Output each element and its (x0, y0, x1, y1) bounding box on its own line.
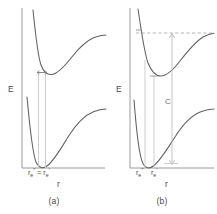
panel-a-plot (0, 0, 108, 186)
potential-energy-figure: E re″ = re′ r (a) (0, 0, 217, 214)
panel-a-x-axis-label: r (57, 179, 60, 189)
re-prime-double: ″ (33, 167, 35, 173)
re-sub-1: e (30, 172, 33, 178)
panel-a: E re″ = re′ r (a) (0, 0, 108, 214)
re-equals: = (37, 169, 41, 176)
panel-b-x-axis-label: r (165, 179, 168, 189)
upper-state-curve (138, 9, 214, 76)
panel-b-y-axis-label: E (116, 84, 122, 94)
upper-state-curve (33, 10, 106, 75)
re-b-prime-double: ″ (141, 167, 143, 173)
panel-a-caption: (a) (0, 196, 108, 206)
panel-b-re-double-prime-label: re″ (136, 169, 143, 176)
panel-b-plot (108, 0, 217, 186)
re-sub-2: e (46, 172, 49, 178)
re-b-sub-2: e (153, 172, 156, 178)
panel-a-y-axis-label: E (8, 84, 14, 94)
panel-b-caption: (b) (108, 196, 216, 206)
panel-a-re-tick-label: re″ = re′ (28, 169, 50, 176)
panel-b-re-single-prime-label: re′ (151, 169, 157, 176)
re-b-sub-1: e (138, 172, 141, 178)
lower-state-curve (134, 100, 214, 168)
re-b-prime-single: ′ (156, 167, 157, 173)
re-prime-single: ′ (49, 167, 50, 173)
panel-b-transition-label: C (165, 97, 171, 106)
panel-b: E C re″ re′ r (b) (108, 0, 216, 214)
